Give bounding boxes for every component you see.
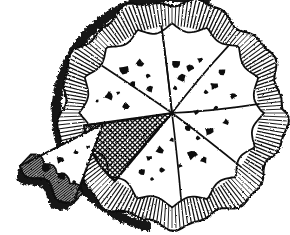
pizza-drawing bbox=[0, 0, 290, 235]
illustration-canvas: Pizza with one slice removed Hand-drawn … bbox=[0, 0, 290, 235]
